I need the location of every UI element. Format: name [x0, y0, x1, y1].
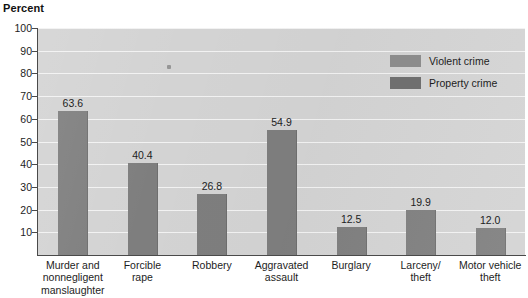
category-label: Larceny/theft: [382, 259, 460, 284]
y-tick-label-40: 40: [6, 158, 32, 170]
bar-value-label: 12.5: [326, 213, 376, 225]
category-label-line: rape: [103, 271, 181, 283]
legend-item-property-crime: Property crime: [390, 76, 522, 89]
category-label-line: theft: [382, 271, 460, 283]
y-axis-title: Percent: [3, 2, 44, 14]
bar-value-label: 12.0: [465, 214, 515, 226]
bar: [337, 227, 367, 255]
bar: [58, 111, 88, 255]
y-tick-100: [32, 28, 38, 29]
category-label: Forciblerape: [103, 259, 181, 284]
y-tick-90: [32, 51, 38, 52]
category-label: Motor vehicletheft: [451, 259, 528, 284]
bar: [476, 228, 506, 255]
bar-value-label: 26.8: [187, 180, 237, 192]
y-tick-10: [32, 232, 38, 233]
gridline-90: [38, 51, 525, 52]
category-label-line: Aggravated: [243, 259, 321, 271]
bar: [406, 210, 436, 255]
y-tick-80: [32, 73, 38, 74]
x-axis-line: [37, 255, 526, 256]
y-tick-label-90: 90: [6, 45, 32, 57]
y-tick-20: [32, 210, 38, 211]
category-label: Burglary: [312, 259, 390, 271]
y-tick-30: [32, 187, 38, 188]
bar-value-label: 19.9: [396, 196, 446, 208]
bar: [197, 194, 227, 255]
y-tick-label-70: 70: [6, 90, 32, 102]
legend-swatch-violent-crime: [390, 55, 421, 67]
scan-artifact-speck: [167, 65, 171, 69]
y-tick-label-30: 30: [6, 181, 32, 193]
y-tick-60: [32, 119, 38, 120]
category-label-line: Motor vehicle: [451, 259, 528, 271]
bar: [128, 163, 158, 255]
bar-value-label: 54.9: [257, 116, 307, 128]
legend-swatch-property-crime: [390, 77, 421, 89]
y-tick-50: [32, 142, 38, 143]
legend-label-property-crime: Property crime: [429, 77, 497, 89]
legend-label-violent-crime: Violent crime: [429, 55, 490, 67]
bar-value-label: 40.4: [117, 149, 167, 161]
y-tick-label-60: 60: [6, 113, 32, 125]
category-label-line: assault: [243, 271, 321, 283]
bar: [267, 130, 297, 255]
bar-chart: Percent 102030405060708090100 63.640.426…: [0, 0, 528, 298]
category-label-line: nonnegligent: [34, 271, 112, 283]
category-label-line: Larceny/: [382, 259, 460, 271]
y-tick-label-50: 50: [6, 136, 32, 148]
category-label-line: manslaughter: [34, 284, 112, 296]
category-label-line: Burglary: [312, 259, 390, 271]
category-label: Murder andnonnegligentmanslaughter: [34, 259, 112, 296]
legend-item-violent-crime: Violent crime: [390, 54, 522, 67]
legend: Violent crime Property crime: [390, 54, 522, 98]
y-tick-label-80: 80: [6, 67, 32, 79]
bar-value-label: 63.6: [48, 97, 98, 109]
category-label: Robbery: [173, 259, 251, 271]
category-label: Aggravatedassault: [243, 259, 321, 284]
y-tick-label-100: 100: [6, 22, 32, 34]
y-tick-label-10: 10: [6, 226, 32, 238]
category-label-line: theft: [451, 271, 528, 283]
y-tick-40: [32, 164, 38, 165]
category-label-line: Forcible: [103, 259, 181, 271]
category-label-line: Robbery: [173, 259, 251, 271]
y-tick-70: [32, 96, 38, 97]
category-label-line: Murder and: [34, 259, 112, 271]
gridline-100: [38, 28, 525, 29]
y-tick-label-20: 20: [6, 204, 32, 216]
